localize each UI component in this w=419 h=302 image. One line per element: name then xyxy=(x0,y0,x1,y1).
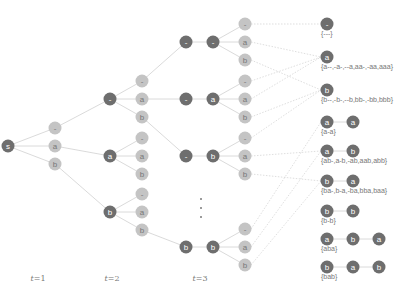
t3-child-node: a xyxy=(239,36,252,49)
t3-child-node: a xyxy=(239,150,252,163)
result-node: b xyxy=(321,205,334,218)
result-node: b xyxy=(347,145,360,158)
t3-prefix-node: - xyxy=(180,36,193,49)
dashed-link xyxy=(251,57,321,81)
dashed-link xyxy=(251,57,321,99)
dashed-link xyxy=(251,151,321,156)
result-node: b xyxy=(321,175,334,188)
t3-prefix-node: - xyxy=(207,36,220,49)
t2-child-node: - xyxy=(136,188,149,201)
result-node: b xyxy=(321,261,334,274)
t2-parent-node: a xyxy=(104,150,117,163)
result-set-label: {---} xyxy=(321,30,333,37)
t3-child-node: b xyxy=(239,168,252,181)
t2-child-node: - xyxy=(136,75,149,88)
ellipsis-dot xyxy=(200,207,202,209)
tree-edge xyxy=(142,117,186,156)
t2-child-node: b xyxy=(136,224,149,237)
result-node: a xyxy=(321,145,334,158)
result-node: b xyxy=(347,233,360,246)
t3-child-node: a xyxy=(239,241,252,254)
t1-child-node: - xyxy=(49,122,62,135)
t2-child-node: b xyxy=(136,111,149,124)
dashed-link xyxy=(251,60,321,90)
result-node: a xyxy=(321,116,334,129)
t3-prefix-node: - xyxy=(180,93,193,106)
t3-child-node: - xyxy=(239,132,252,145)
dashed-link xyxy=(251,90,321,117)
t3-child-node: b xyxy=(239,111,252,124)
result-node: a xyxy=(347,261,360,274)
result-set-label: {b-b} xyxy=(321,217,336,224)
result-node: a xyxy=(321,233,334,246)
t3-child-node: - xyxy=(239,18,252,31)
dashed-link xyxy=(251,90,321,138)
result-set-label: {ba-,b-a,-ba,bba,baa} xyxy=(321,187,387,194)
ellipsis-dot xyxy=(200,198,202,200)
result-node: a xyxy=(347,175,360,188)
time-label-t3: t=3 xyxy=(192,274,207,283)
result-set-label: {bab} xyxy=(321,273,337,280)
result-node: - xyxy=(321,18,334,31)
result-set-label: {ab-,a-b,-ab,aab,abb} xyxy=(321,157,387,164)
t2-child-node: b xyxy=(136,168,149,181)
t2-parent-node: - xyxy=(104,93,117,106)
result-node: a xyxy=(373,233,386,246)
result-set-label: {a--,-a-,--a,aa-,-aa,aaa} xyxy=(321,63,393,70)
t3-prefix-node: - xyxy=(180,150,193,163)
tree-edge xyxy=(55,164,110,212)
result-set-label: {aba} xyxy=(321,245,337,252)
dashed-link xyxy=(251,151,321,247)
root-node: s xyxy=(2,140,15,153)
t1-child-node: a xyxy=(49,140,62,153)
result-node: b xyxy=(373,261,386,274)
t2-parent-node: b xyxy=(104,206,117,219)
t3-prefix-node: b xyxy=(207,241,220,254)
result-set-label: {b--,-b-,--b,bb-,-bb,bbb} xyxy=(321,96,393,103)
t3-child-node: b xyxy=(239,54,252,67)
t3-prefix-node: b xyxy=(207,150,220,163)
t1-child-node: b xyxy=(49,158,62,171)
t2-child-node: - xyxy=(136,132,149,145)
dashed-link xyxy=(251,42,321,57)
result-set-label: {a-a} xyxy=(321,128,336,135)
result-node: a xyxy=(347,116,360,129)
t3-child-node: - xyxy=(239,75,252,88)
ellipsis-dot xyxy=(200,216,202,218)
dashed-link xyxy=(251,181,321,265)
time-label-t2: t=2 xyxy=(104,274,119,283)
t3-prefix-node: b xyxy=(180,241,193,254)
tree-edge xyxy=(55,146,110,156)
result-node: b xyxy=(321,84,334,97)
time-label-t1: t=1 xyxy=(30,274,45,283)
t2-child-node: a xyxy=(136,150,149,163)
t3-prefix-node: a xyxy=(207,93,220,106)
tree-edge xyxy=(142,42,186,81)
t3-child-node: a xyxy=(239,93,252,106)
result-node: b xyxy=(347,205,360,218)
t3-child-node: - xyxy=(239,223,252,236)
t3-child-node: b xyxy=(239,259,252,272)
result-node: a xyxy=(321,51,334,64)
t2-child-node: a xyxy=(136,206,149,219)
t2-child-node: a xyxy=(136,93,149,106)
tree-edge xyxy=(55,99,110,128)
dashed-link xyxy=(251,122,321,229)
